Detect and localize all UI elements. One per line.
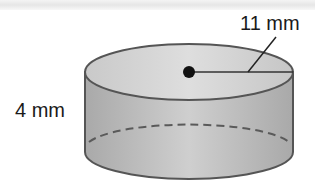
- center-dot: [183, 66, 195, 78]
- radius-label: 11 mm: [240, 13, 300, 33]
- height-label: 4 mm: [15, 100, 65, 120]
